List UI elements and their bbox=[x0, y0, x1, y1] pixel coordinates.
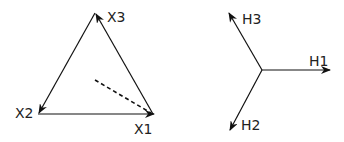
edge-x3-to-x2 bbox=[39, 13, 95, 113]
label-h2: H2 bbox=[241, 117, 260, 133]
label-h3: H3 bbox=[242, 11, 261, 27]
edge-x1-to-x3 bbox=[96, 14, 153, 114]
triangle-diagram: X3 X2 X1 bbox=[15, 9, 154, 137]
label-x1: X1 bbox=[134, 121, 153, 137]
label-h1: H1 bbox=[309, 53, 328, 69]
diagram-canvas: X3 X2 X1 H3 H1 H2 bbox=[0, 0, 344, 142]
star-diagram: H3 H1 H2 bbox=[229, 11, 330, 133]
label-x3: X3 bbox=[107, 9, 126, 25]
label-x2: X2 bbox=[15, 105, 34, 121]
